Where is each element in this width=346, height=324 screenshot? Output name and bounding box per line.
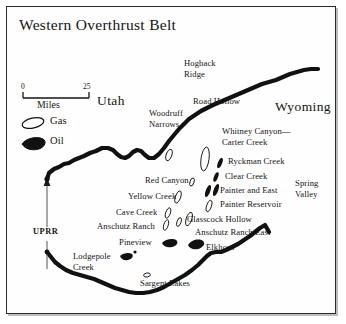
map-frame: Western Overthrust Belt 0 25 Miles Gas O… xyxy=(6,6,336,314)
legend-gas-symbol xyxy=(21,116,45,130)
field-symbol-glasscock-hollow xyxy=(176,217,183,227)
region-label-spring-valley-line1: Spring xyxy=(295,179,319,188)
field-label-whitney-canyon-line2: Carter Creek xyxy=(222,138,267,147)
field-symbol-anschutz-ranch xyxy=(162,219,170,231)
field-label-sargent-lakes: Sargent Lakes xyxy=(140,279,190,288)
field-label-cave-creek: Cave Creek xyxy=(116,208,157,217)
region-label-spring-valley-line2: Valley xyxy=(295,190,318,199)
field-label-lodgepole-creek-line2: Creek xyxy=(73,263,94,272)
field-label-yellow-creek: Yellow Creek xyxy=(128,192,176,201)
field-label-hogback-ridge-line2: Ridge xyxy=(184,70,205,79)
field-symbol-red-canyon xyxy=(189,177,195,186)
field-label-red-canyon: Red Canyon xyxy=(145,176,189,185)
scale-bar-graphic xyxy=(23,92,89,98)
page-title: Western Overthrust Belt xyxy=(19,17,176,33)
field-symbol-sargent-lakes xyxy=(143,272,150,277)
field-label-woodruff-narrows-line2: Narrows xyxy=(149,120,179,129)
field-label-pineview: Pineview xyxy=(119,238,152,247)
scale-max-label: 25 xyxy=(83,83,91,91)
field-label-anschutz-ranch-east: Anschutz Ranch East xyxy=(195,228,270,237)
field-label-elkhorn: Elkhorn xyxy=(206,243,234,252)
field-symbol-painter xyxy=(204,184,213,198)
field-label-hogback-ridge-line1: Hogback xyxy=(184,59,216,68)
field-label-anschutz-ranch: Anschutz Ranch xyxy=(97,222,155,231)
field-label-painter-line1: Painter and East xyxy=(220,186,277,195)
field-symbol-clear-creek xyxy=(212,172,219,183)
field-label-lodgepole-creek-line1: Lodgepole xyxy=(73,252,111,261)
state-label-wyoming: Wyoming xyxy=(275,100,331,114)
field-symbol-woodruff-narrows xyxy=(164,148,173,161)
field-label-clear-creek: Clear Creek xyxy=(225,172,267,181)
field-label-glasscock-hollow: Glasscock Hollow xyxy=(187,215,252,224)
field-symbol-lodgepole-creek xyxy=(120,253,133,260)
map-graphics-layer xyxy=(7,7,335,313)
field-symbol-ryckman-creek xyxy=(216,157,224,169)
field-symbol-painter-reservoir xyxy=(205,200,213,213)
field-symbol-cave-creek xyxy=(164,207,172,219)
field-symbol-elkhorn xyxy=(188,240,204,250)
scale-min-label: 0 xyxy=(21,83,25,91)
legend-label-oil: Oil xyxy=(50,136,64,147)
field-label-road-hollow: Road Hollow xyxy=(193,97,240,106)
legend-label-gas: Gas xyxy=(50,116,67,127)
field-label-whitney-canyon-line1: Whitney Canyon— xyxy=(222,127,291,136)
legend-oil-symbol xyxy=(22,138,45,150)
railroad-label-uprr: UPRR xyxy=(33,228,58,237)
field-label-ryckman-creek: Ryckman Creek xyxy=(228,157,285,166)
field-label-woodruff-narrows-line1: Woodruff xyxy=(149,109,183,118)
field-symbol-whitney-canyon xyxy=(199,147,210,172)
field-symbol-pineview xyxy=(162,239,177,247)
scale-unit-label: Miles xyxy=(37,100,60,110)
state-label-utah: Utah xyxy=(97,94,125,108)
field-label-painter-line2: Painter Reservoir xyxy=(220,200,282,209)
field-symbol-lodgepole-creek-2 xyxy=(133,250,136,253)
